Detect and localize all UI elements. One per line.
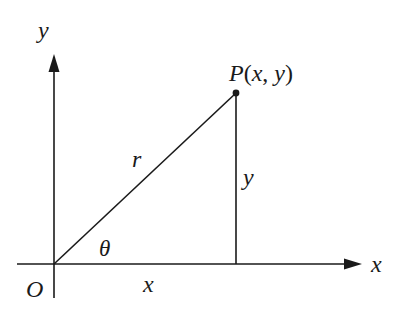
polar-coordinate-diagram: y x O P(x, y) r y θ x [0, 0, 398, 319]
point-p-y: y [272, 60, 285, 86]
point-p-dot [233, 90, 240, 97]
point-p-label: P(x, y) [228, 60, 293, 86]
x-axis [17, 259, 362, 270]
point-p-name: P [228, 60, 244, 86]
x-axis-arrow-icon [344, 259, 362, 270]
hypotenuse-label: r [132, 146, 142, 172]
point-p-close-paren: ) [285, 60, 293, 86]
origin-label: O [26, 276, 43, 302]
point-p-comma: , [262, 60, 274, 86]
y-axis-arrow-icon [49, 54, 60, 72]
angle-theta-label: θ [99, 236, 110, 261]
point-p-x: x [251, 60, 263, 86]
radius-line [54, 93, 236, 264]
vertical-side-label: y [241, 164, 254, 190]
point-p-open-paren: ( [244, 60, 252, 86]
y-axis-label: y [36, 17, 49, 43]
diagram-svg: y x O P(x, y) r y θ x [0, 0, 398, 319]
x-axis-label: x [370, 251, 382, 277]
horizontal-side-label: x [142, 271, 154, 297]
